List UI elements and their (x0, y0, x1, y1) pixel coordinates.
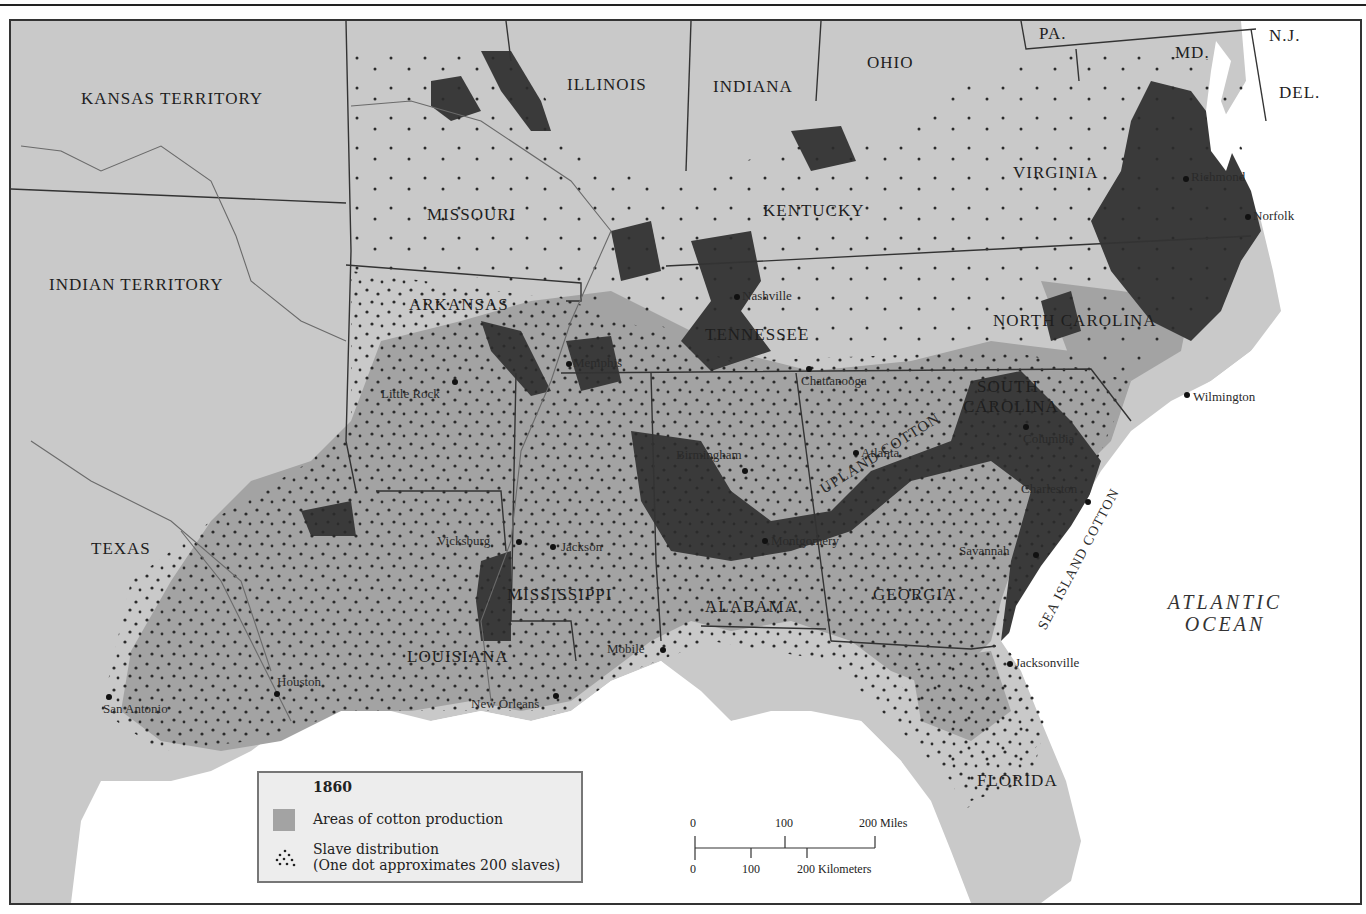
scale-miles-200: 200 Miles (859, 816, 907, 831)
legend-slave-label: Slave distribution (One dot approximates… (313, 841, 560, 873)
label-atlantic-ocean: ATLANTIC OCEAN (1145, 591, 1305, 635)
city-birmingham: Birmingham (676, 447, 742, 463)
label-carolina: CAROLINA (963, 397, 1059, 417)
label-illinois: ILLINOIS (567, 75, 647, 95)
map-frame: KANSAS TERRITORY INDIAN TERRITORY ILLINO… (9, 19, 1362, 905)
label-nj: N.J. (1269, 26, 1300, 46)
city-little-rock: Little Rock (381, 386, 440, 402)
label-mississippi: MISSISSIPPI (507, 585, 613, 605)
city-nashville: Nashville (742, 288, 792, 304)
ocean-line-2: OCEAN (1145, 613, 1305, 635)
top-frame-edge (0, 0, 1366, 6)
label-indiana: INDIANA (713, 77, 793, 97)
label-alabama: ALABAMA (705, 597, 798, 617)
label-del: DEL. (1279, 83, 1320, 103)
scale-bar: 0 100 200 Miles 0 100 200 Kilometers (687, 816, 927, 886)
label-louisiana: LOUISIANA (407, 647, 509, 667)
legend-slave-title: Slave distribution (313, 841, 560, 857)
label-indian-territory: INDIAN TERRITORY (49, 275, 224, 295)
label-georgia: GEORGIA (873, 585, 957, 605)
scale-miles-0: 0 (690, 816, 696, 831)
cotton-swatch-icon (273, 809, 295, 831)
city-columbia: Columbia (1023, 431, 1074, 447)
city-norfolk: Norfolk (1253, 208, 1294, 224)
label-kansas-territory: KANSAS TERRITORY (81, 89, 263, 109)
scale-km-0: 0 (690, 862, 696, 877)
legend-slave-sublabel: (One dot approximates 200 slaves) (313, 857, 560, 873)
city-savannah: Savannah (959, 543, 1010, 559)
city-montgomery: Montgomery (771, 533, 839, 549)
label-south: SOUTH (977, 377, 1039, 397)
city-charleston: Charleston (1021, 481, 1077, 497)
label-kentucky: KENTUCKY (763, 201, 865, 221)
legend-cotton-label: Areas of cotton production (313, 811, 503, 827)
city-new-orleans: New Orleans (471, 696, 539, 712)
label-md: MD. (1175, 43, 1210, 63)
scale-bar-lines (687, 834, 927, 862)
label-arkansas: ARKANSAS (409, 295, 509, 315)
city-houston: Houston (277, 674, 321, 690)
label-missouri: MISSOURI (427, 205, 516, 225)
city-jacksonville: Jacksonville (1015, 655, 1079, 671)
scale-miles-100: 100 (775, 816, 793, 831)
label-florida: FLORIDA (977, 771, 1058, 791)
city-vicksburg: Vicksburg (437, 533, 490, 549)
city-chattanooga: Chattanooga (801, 373, 867, 389)
city-memphis: Memphis (573, 355, 622, 371)
label-tennessee: TENNESSEE (705, 325, 809, 345)
dot-cluster-icon (275, 849, 297, 867)
city-san-antonio: San Antonio (103, 701, 168, 717)
city-jackson: Jackson (561, 539, 602, 555)
city-richmond: Richmond (1191, 169, 1245, 185)
label-north-carolina: NORTH CAROLINA (993, 311, 1157, 331)
map-legend: 1860 Areas of cotton production Slave di… (257, 771, 583, 883)
scale-km-200: 200 Kilometers (797, 862, 871, 877)
scale-km-100: 100 (742, 862, 760, 877)
label-pa: PA. (1039, 24, 1066, 44)
label-virginia: VIRGINIA (1013, 163, 1098, 183)
label-ohio: OHIO (867, 53, 914, 73)
city-mobile: Mobile (607, 641, 645, 657)
city-wilmington: Wilmington (1193, 389, 1255, 405)
label-texas: TEXAS (91, 539, 151, 559)
legend-year: 1860 (313, 779, 352, 795)
ocean-line-1: ATLANTIC (1145, 591, 1305, 613)
